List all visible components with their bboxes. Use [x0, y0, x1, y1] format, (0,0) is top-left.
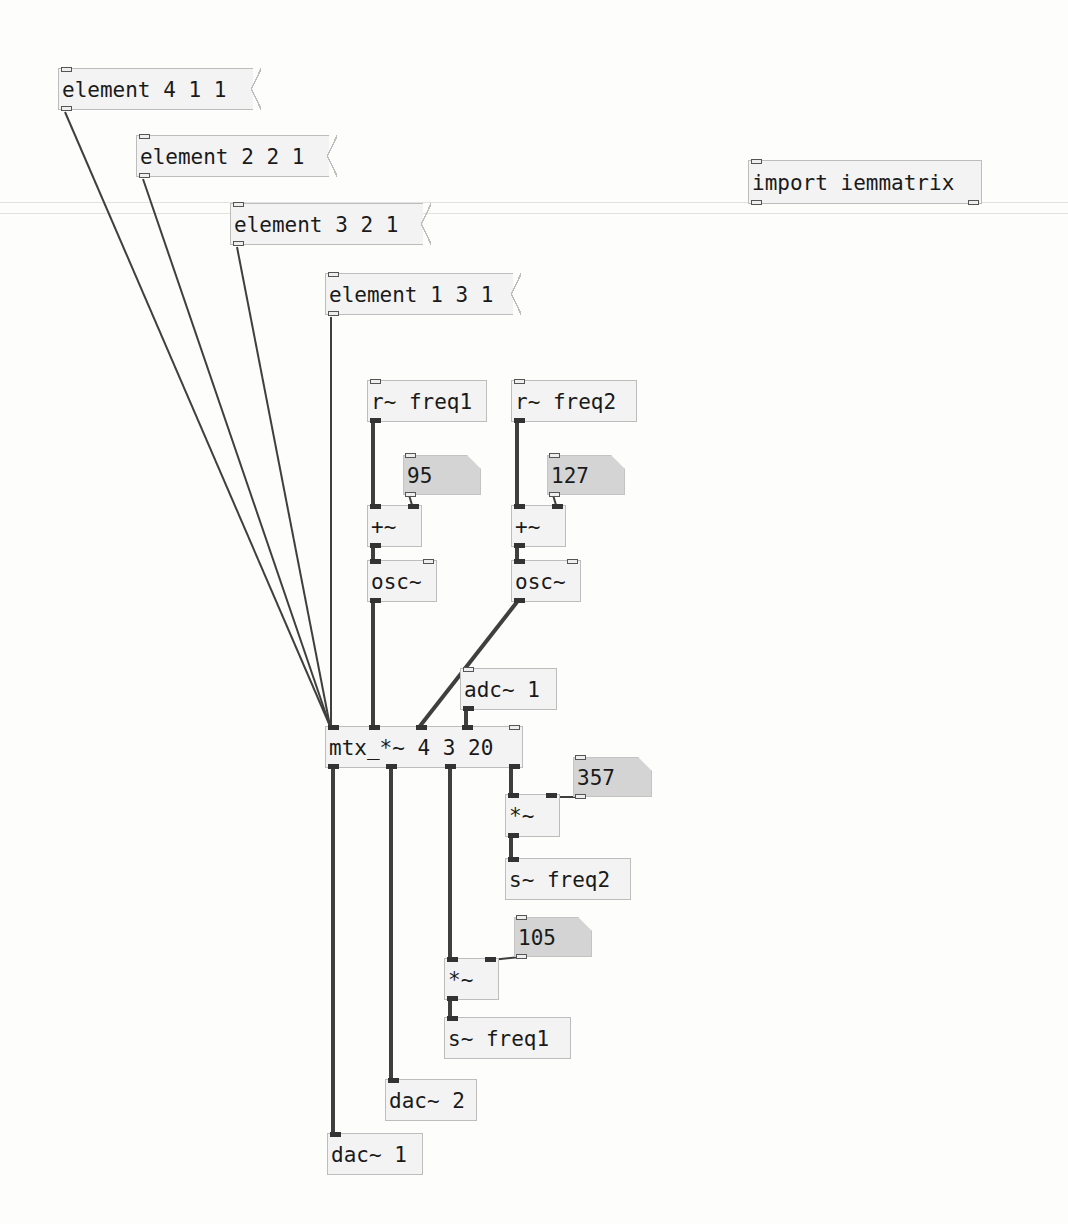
inlet[interactable]	[751, 159, 762, 164]
outlet-3[interactable]	[445, 764, 456, 769]
object-text: osc~	[515, 570, 566, 594]
outlet-2[interactable]	[386, 764, 397, 769]
outlet[interactable]	[508, 833, 519, 838]
object-send-freq2[interactable]: s~ freq2	[505, 858, 631, 900]
inlet[interactable]	[514, 379, 525, 384]
object-add-signal-1[interactable]: +~	[367, 505, 422, 547]
object-text: osc~	[371, 570, 422, 594]
outlet[interactable]	[514, 418, 525, 423]
inlet-3[interactable]	[416, 725, 427, 730]
number-105-outlet[interactable]	[516, 954, 527, 959]
object-text: *~	[448, 968, 473, 992]
inlet-5[interactable]	[509, 725, 520, 730]
inlet[interactable]	[61, 67, 72, 72]
number-357-outlet[interactable]	[575, 794, 586, 799]
outlet[interactable]	[514, 543, 525, 548]
inlet-2[interactable]	[369, 725, 380, 730]
number-box-357[interactable]: 357	[573, 757, 652, 797]
object-text: +~	[515, 515, 540, 539]
outlet-1[interactable]	[328, 764, 339, 769]
inlet-right[interactable]	[485, 957, 496, 962]
number-box-127[interactable]: 127	[547, 455, 625, 495]
object-matrix-multiply[interactable]: mtx_*~ 4 3 20	[325, 726, 523, 768]
object-oscillator-2[interactable]: osc~	[511, 560, 581, 602]
number-357-inlet[interactable]	[575, 755, 586, 760]
inlet-right[interactable]	[546, 793, 557, 798]
outlet[interactable]	[514, 598, 525, 603]
object-receive-freq1[interactable]: r~ freq1	[367, 380, 487, 422]
inlet-left[interactable]	[514, 504, 525, 509]
inlet[interactable]	[508, 857, 519, 862]
object-text: mtx_*~ 4 3 20	[329, 736, 493, 760]
outlet[interactable]	[139, 173, 150, 178]
object-text: s~ freq2	[509, 868, 610, 892]
inlet[interactable]	[370, 379, 381, 384]
inlet[interactable]	[463, 667, 474, 672]
message-element-3-2-1[interactable]: element 3 2 1	[230, 203, 423, 245]
outlet[interactable]	[463, 706, 474, 711]
number-value: 127	[551, 464, 589, 488]
number-box-95[interactable]: 95	[403, 455, 481, 495]
cord-e321-mtx	[237, 247, 330, 726]
number-value: 105	[518, 926, 556, 950]
outlet-4[interactable]	[509, 764, 520, 769]
number-95-inlet[interactable]	[405, 453, 416, 458]
object-text: import iemmatrix	[752, 171, 954, 195]
number-value: 95	[407, 464, 432, 488]
outlet-left[interactable]	[751, 200, 762, 205]
number-95-outlet[interactable]	[405, 492, 416, 497]
inlet-left[interactable]	[447, 957, 458, 962]
inlet-4[interactable]	[462, 725, 473, 730]
object-dac-2[interactable]: dac~ 2	[385, 1079, 477, 1121]
inlet[interactable]	[330, 1132, 341, 1137]
object-receive-freq2[interactable]: r~ freq2	[511, 380, 637, 422]
outlet[interactable]	[328, 311, 339, 316]
object-text: *~	[509, 804, 534, 828]
outlet[interactable]	[61, 106, 72, 111]
number-127-inlet[interactable]	[549, 453, 560, 458]
outlet[interactable]	[370, 598, 381, 603]
object-text: dac~ 2	[389, 1089, 465, 1113]
message-text: element 4 1 1	[62, 78, 226, 102]
object-text: r~ freq2	[515, 390, 616, 414]
message-element-4-1-1[interactable]: element 4 1 1	[58, 68, 253, 110]
inlet-left[interactable]	[514, 559, 525, 564]
inlet-left[interactable]	[508, 793, 519, 798]
inlet[interactable]	[139, 134, 150, 139]
inlet-right[interactable]	[567, 559, 578, 564]
message-element-1-3-1[interactable]: element 1 3 1	[325, 273, 513, 315]
object-text: s~ freq1	[448, 1027, 549, 1051]
object-text: +~	[371, 515, 396, 539]
object-dac-1[interactable]: dac~ 1	[327, 1133, 423, 1175]
inlet[interactable]	[447, 1016, 458, 1021]
scan-artifact-line	[0, 213, 1068, 214]
inlet-right[interactable]	[423, 559, 434, 564]
outlet[interactable]	[233, 241, 244, 246]
object-import-iemmatrix[interactable]: import iemmatrix	[748, 160, 982, 204]
outlet[interactable]	[370, 543, 381, 548]
object-send-freq1[interactable]: s~ freq1	[444, 1017, 571, 1059]
message-text: element 2 2 1	[140, 145, 304, 169]
inlet[interactable]	[388, 1078, 399, 1083]
inlet-left[interactable]	[370, 504, 381, 509]
inlet[interactable]	[328, 272, 339, 277]
number-105-inlet[interactable]	[516, 915, 527, 920]
inlet-right[interactable]	[408, 504, 419, 509]
number-value: 357	[577, 766, 615, 790]
number-box-105[interactable]: 105	[514, 917, 592, 957]
object-oscillator-1[interactable]: osc~	[367, 560, 437, 602]
object-multiply-signal-a[interactable]: *~	[505, 794, 560, 837]
object-adc-1[interactable]: adc~ 1	[460, 668, 557, 710]
object-multiply-signal-b[interactable]: *~	[444, 958, 499, 1000]
message-element-2-2-1[interactable]: element 2 2 1	[136, 135, 329, 177]
outlet-right[interactable]	[968, 200, 979, 205]
inlet[interactable]	[233, 202, 244, 207]
object-add-signal-2[interactable]: +~	[511, 505, 566, 547]
outlet[interactable]	[370, 418, 381, 423]
number-127-outlet[interactable]	[549, 492, 560, 497]
inlet-1[interactable]	[328, 725, 339, 730]
cord-e221-mtx	[143, 179, 330, 726]
inlet-left[interactable]	[370, 559, 381, 564]
outlet[interactable]	[447, 996, 458, 1001]
inlet-right[interactable]	[552, 504, 563, 509]
